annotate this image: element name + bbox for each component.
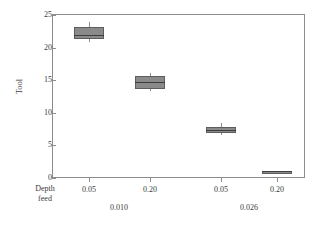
y-tick-label: 0 xyxy=(36,174,52,182)
y-tick-label: 20 xyxy=(36,44,52,52)
y-axis-title: Tool xyxy=(15,67,24,107)
y-tick-mark xyxy=(52,113,56,114)
y-tick-mark xyxy=(52,15,56,16)
median-line xyxy=(74,35,104,36)
y-tick-label: 25 xyxy=(36,11,52,19)
x-tick-label: 0.05 xyxy=(69,185,109,194)
axis-row-label-feed: feed xyxy=(22,194,68,204)
median-line xyxy=(135,82,165,83)
y-tick-mark xyxy=(52,178,56,179)
axis-row-label-depth: Depth xyxy=(22,184,68,194)
x-tick-mark xyxy=(277,178,278,182)
x-tick-mark xyxy=(221,178,222,182)
y-tick-mark xyxy=(52,80,56,81)
whisker-lower xyxy=(89,39,90,42)
x-group-label: 0.026 xyxy=(219,203,279,212)
x-tick-label: 0.05 xyxy=(201,185,241,194)
x-group-label: 0.010 xyxy=(89,203,149,212)
y-tick-label: 15 xyxy=(36,76,52,84)
box-rect xyxy=(74,27,104,39)
y-tick-mark xyxy=(52,48,56,49)
x-tick-mark xyxy=(150,178,151,182)
x-tick-mark xyxy=(89,178,90,182)
axis-row-labels: Depth feed xyxy=(22,184,68,204)
y-tick-label: 5 xyxy=(36,141,52,149)
whisker-lower xyxy=(150,89,151,91)
y-tick-label: 10 xyxy=(36,109,52,117)
x-tick-label: 0.20 xyxy=(257,185,297,194)
boxplot-figure: 0510152025 Tool 0.050.200.050.200.0100.0… xyxy=(0,0,317,227)
median-line xyxy=(206,130,236,131)
median-line xyxy=(262,171,292,172)
x-tick-label: 0.20 xyxy=(130,185,170,194)
whisker-lower xyxy=(221,133,222,135)
y-tick-mark xyxy=(52,145,56,146)
